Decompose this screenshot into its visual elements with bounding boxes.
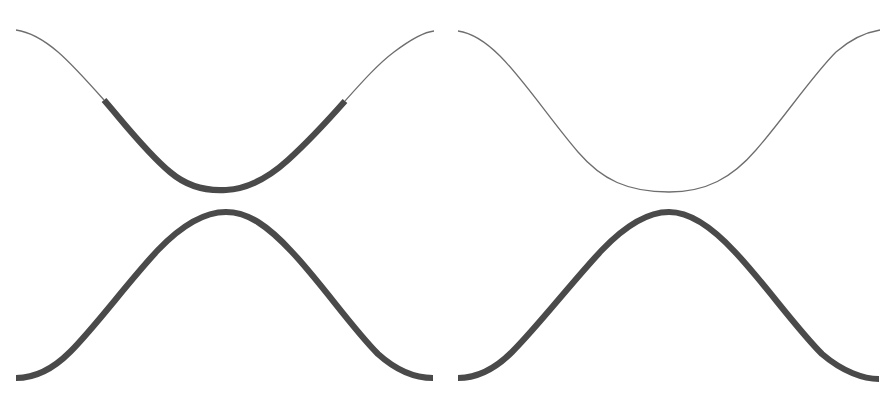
left-panel-lower-band xyxy=(16,212,433,378)
figure-root xyxy=(0,0,896,405)
dispersion-chart-svg xyxy=(0,0,896,405)
right-panel xyxy=(458,30,880,379)
left-panel-upper-band-thin-left-segment xyxy=(16,30,104,100)
left-panel-upper-band-highlight-segment xyxy=(104,100,345,190)
left-panel xyxy=(16,30,434,378)
right-panel-upper-band xyxy=(458,30,880,192)
right-panel-lower-band xyxy=(458,212,879,379)
left-panel-upper-band-thin-right-segment xyxy=(345,31,434,101)
